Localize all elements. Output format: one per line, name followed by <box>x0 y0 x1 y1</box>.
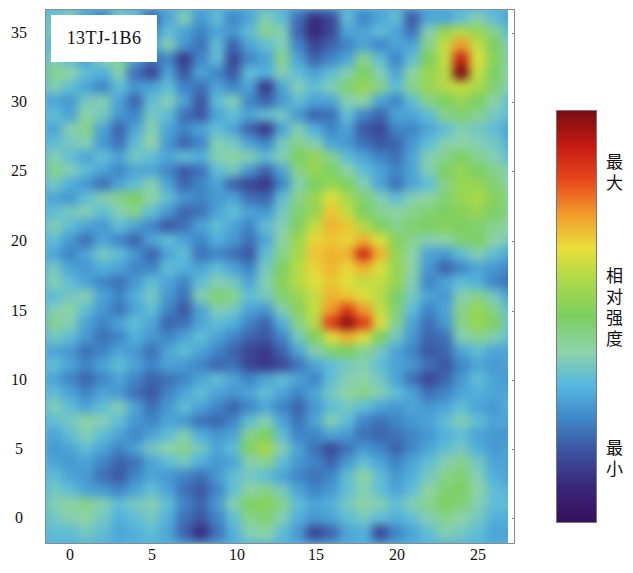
colorbar <box>556 110 597 523</box>
x-tick-label: 20 <box>389 546 405 564</box>
x-tick-label: 15 <box>308 546 324 564</box>
y-tick-label: 35 <box>8 24 30 42</box>
sample-label: 13TJ-1B6 <box>51 15 157 62</box>
y-tick-mark <box>512 102 515 103</box>
y-tick-label: 25 <box>8 162 30 180</box>
y-tick-label: 10 <box>8 371 30 389</box>
sample-label-text: 13TJ-1B6 <box>67 28 141 49</box>
heatmap-image <box>46 10 508 543</box>
y-tick-mark <box>512 449 515 450</box>
colorbar-min-label: 最小 <box>603 438 625 480</box>
y-tick-mark <box>512 311 515 312</box>
y-tick-mark <box>512 171 515 172</box>
x-tick-label: 25 <box>470 546 486 564</box>
y-tick-label: 20 <box>8 232 30 250</box>
heatmap-cells <box>46 10 508 543</box>
y-tick-label: 15 <box>8 302 30 320</box>
y-tick-mark <box>512 241 515 242</box>
y-tick-mark <box>512 33 515 34</box>
plot-area <box>45 9 515 544</box>
colorbar-max-label: 最大 <box>603 152 625 194</box>
x-tick-label: 0 <box>66 546 74 564</box>
y-tick-label: 30 <box>8 93 30 111</box>
y-tick-label: 5 <box>8 440 30 458</box>
y-tick-mark <box>512 518 515 519</box>
x-tick-label: 5 <box>148 546 156 564</box>
y-tick-mark <box>512 380 515 381</box>
colorbar-title-label: 相对强度 <box>603 266 625 350</box>
x-tick-label: 10 <box>229 546 245 564</box>
y-tick-label: 0 <box>8 509 30 527</box>
